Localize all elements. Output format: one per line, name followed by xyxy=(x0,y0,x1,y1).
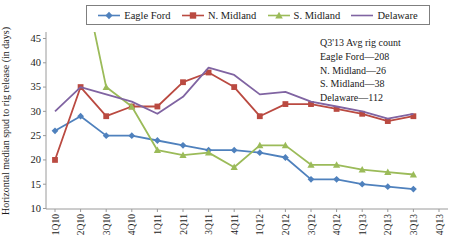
legend-label: Eagle Ford xyxy=(124,10,170,21)
y-tick-label: 45 xyxy=(31,33,42,44)
y-tick-label: 10 xyxy=(31,203,42,214)
chart-figure: 1015202530354045Horizontal median spud t… xyxy=(0,0,456,252)
x-tick-label: 3Q12 xyxy=(307,214,317,235)
x-tick-label: 1Q11 xyxy=(153,214,163,235)
series-eagle-ford xyxy=(52,113,417,193)
x-tick-label: 1Q10 xyxy=(51,214,61,235)
x-tick-label: 3Q11 xyxy=(204,214,214,235)
x-tick-label: 4Q12 xyxy=(332,214,342,235)
legend-item-eagle-ford: Eagle Ford xyxy=(98,10,170,21)
legend-item-s-midland: S. Midland xyxy=(268,10,341,21)
legend-label: Delaware xyxy=(377,10,417,21)
y-tick-label: 20 xyxy=(31,154,42,165)
x-tick-label: 4Q13 xyxy=(435,214,445,235)
legend-label: S. Midland xyxy=(294,10,341,21)
y-tick-label: 15 xyxy=(31,179,42,190)
x-tick-label: 2Q12 xyxy=(281,214,291,235)
y-tick-label: 40 xyxy=(31,57,42,68)
legend-item-n-midland: N. Midland xyxy=(182,10,256,21)
annotation-line: N. Midland—26 xyxy=(320,64,401,78)
delaware-line-icon xyxy=(351,11,373,20)
eagle-ford-line-marker-icon xyxy=(98,11,120,20)
annotation-line: Delaware—112 xyxy=(320,91,401,105)
y-tick-label: 35 xyxy=(31,81,42,92)
y-axis-title: Horizontal median spud to rig release (i… xyxy=(0,27,12,215)
x-tick-label: 3Q10 xyxy=(102,214,112,235)
annotation-line: S. Midland—38 xyxy=(320,77,401,91)
x-tick-label: 2Q10 xyxy=(76,214,86,235)
y-tick-label: 25 xyxy=(31,130,42,141)
x-tick-label: 2Q13 xyxy=(383,214,393,235)
n-midland-line-marker-icon xyxy=(182,11,204,20)
legend-label: N. Midland xyxy=(208,10,256,21)
chart-legend: Eagle Ford N. Midland S. Midland Delawar… xyxy=(86,5,430,25)
x-tick-label: 4Q10 xyxy=(127,214,137,235)
x-tick-label: 1Q12 xyxy=(255,214,265,235)
x-tick-label: 3Q13 xyxy=(409,214,419,235)
x-tick-label: 2Q11 xyxy=(179,214,189,235)
x-tick-label: 1Q13 xyxy=(358,214,368,235)
y-tick-label: 30 xyxy=(31,106,42,117)
x-tick-label: 4Q11 xyxy=(230,214,240,235)
annotation-line: Eagle Ford—208 xyxy=(320,50,401,64)
annotation-line: Q3'13 Avg rig count xyxy=(320,36,401,50)
y-axis: 1015202530354045Horizontal median spud t… xyxy=(0,27,46,215)
x-axis: 1Q102Q103Q104Q101Q112Q113Q114Q111Q122Q12… xyxy=(46,209,448,235)
s-midland-line-marker-icon xyxy=(268,11,290,20)
legend-item-delaware: Delaware xyxy=(351,10,417,21)
annotation-box: Q3'13 Avg rig count Eagle Ford—208 N. Mi… xyxy=(320,36,401,105)
